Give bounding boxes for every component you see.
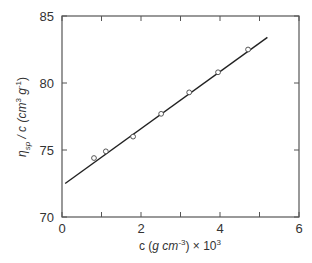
data-point-marker bbox=[216, 70, 221, 75]
x-tick-label: 4 bbox=[216, 221, 223, 236]
x-tick-label: 0 bbox=[58, 221, 65, 236]
data-point-marker bbox=[103, 149, 108, 154]
axis-ticks bbox=[62, 16, 299, 217]
data-point-marker bbox=[187, 90, 192, 95]
fit-line bbox=[65, 37, 267, 183]
data-point-marker bbox=[92, 156, 97, 161]
data-point-marker bbox=[131, 134, 136, 139]
y-tick-label: 70 bbox=[40, 210, 54, 225]
y-axis-label: ηsp / c (cm3 g-1) bbox=[14, 77, 32, 157]
chart-svg: 024670758085 c (g cm-3) × 103 ηsp / c (c… bbox=[0, 0, 312, 263]
y-tick-label: 85 bbox=[40, 9, 54, 24]
x-tick-label: 2 bbox=[137, 221, 144, 236]
axis-tick-labels: 024670758085 bbox=[40, 9, 303, 236]
y-tick-label: 80 bbox=[40, 76, 54, 91]
data-points bbox=[92, 47, 251, 160]
plot-border bbox=[62, 16, 299, 217]
chart: 024670758085 c (g cm-3) × 103 ηsp / c (c… bbox=[0, 0, 312, 263]
x-tick-label: 6 bbox=[295, 221, 302, 236]
x-axis-label: c (g cm-3) × 103 bbox=[139, 238, 222, 253]
fit-line-path bbox=[65, 37, 267, 183]
y-tick-label: 75 bbox=[40, 143, 54, 158]
data-point-marker bbox=[246, 47, 251, 52]
data-point-marker bbox=[159, 111, 164, 116]
plot-frame bbox=[62, 16, 299, 217]
